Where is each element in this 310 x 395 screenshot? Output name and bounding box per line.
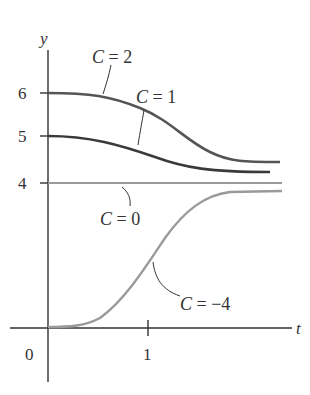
solution-curves-chart: y t 6 5 4 0 1 C = 2 C = 1 C = 0 C = −4 — [0, 0, 310, 395]
y-axis-label: y — [38, 29, 48, 48]
leader-c1 — [138, 110, 144, 145]
label-c1: C = 1 — [136, 87, 176, 107]
x-axis-label: t — [296, 319, 302, 338]
leader-c0 — [122, 187, 130, 206]
origin-label: 0 — [25, 345, 34, 364]
leader-cm4 — [153, 262, 180, 296]
y-tick-label-6: 6 — [18, 84, 27, 103]
label-c0: C = 0 — [100, 209, 140, 229]
label-c2: C = 2 — [92, 47, 132, 67]
curve-c1 — [48, 136, 270, 172]
y-tick-label-4: 4 — [18, 174, 27, 193]
leader-c2 — [103, 65, 111, 94]
y-tick-label-5: 5 — [18, 127, 27, 146]
x-tick-label-1: 1 — [143, 345, 152, 364]
curve-cm4 — [48, 191, 282, 327]
label-cm4: C = −4 — [180, 294, 230, 314]
